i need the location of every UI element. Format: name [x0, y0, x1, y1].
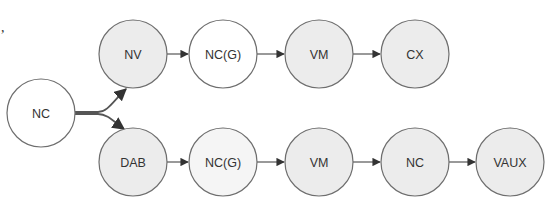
node-label: NC(G)	[205, 156, 241, 170]
node-label: NV	[124, 48, 142, 62]
diagram-canvas: NC NV NC(G) VM CX DAB NC(G) VM	[0, 0, 550, 198]
node-label: NC(G)	[205, 48, 241, 62]
node-label: NC	[32, 107, 50, 121]
node-vaux: VAUX	[476, 128, 544, 196]
flow-diagram: , NC NV	[0, 0, 550, 198]
node-cx: CX	[381, 20, 449, 88]
edge-nc-to-dab	[75, 114, 124, 129]
node-nv: NV	[99, 20, 167, 88]
node-dab: DAB	[99, 128, 167, 196]
node-label: CX	[406, 48, 424, 62]
node-nc-bottom: NC	[381, 128, 449, 196]
node-label: VM	[310, 48, 329, 62]
node-ncg-top: NC(G)	[189, 20, 257, 88]
node-ncg-bottom: NC(G)	[189, 128, 257, 196]
branch-edges	[75, 89, 126, 129]
node-nc-start: NC	[7, 79, 75, 147]
node-label: VM	[310, 156, 329, 170]
node-label: NC	[406, 156, 424, 170]
node-label: DAB	[120, 156, 146, 170]
node-vm-top: VM	[285, 20, 353, 88]
stray-mark: ,	[1, 20, 5, 36]
edge-nc-to-nv	[75, 89, 126, 112]
node-vm-bottom: VM	[285, 128, 353, 196]
node-label: VAUX	[493, 156, 527, 170]
